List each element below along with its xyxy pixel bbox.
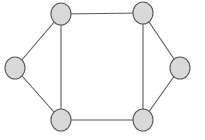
node-right [170,57,190,79]
edge-top-left-top-right [61,13,143,14]
node-top-left [51,3,71,25]
graph-diagram [0,0,205,140]
node-bottom-right [133,109,153,131]
node-top-right [133,2,153,24]
graph-edges [15,13,180,120]
graph-nodes [5,2,190,131]
node-left [5,57,25,79]
node-bottom-left [51,109,71,131]
